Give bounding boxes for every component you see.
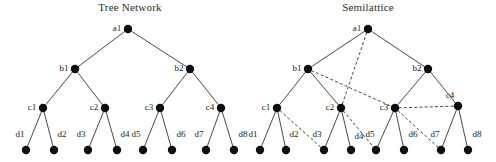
node-label-d6: d6 (177, 129, 187, 139)
node-label-d8: d8 (239, 129, 249, 139)
edge-c2-d3 (325, 111, 339, 146)
edge-c4-d8 (222, 111, 233, 146)
node-label-d4: d4 (121, 129, 131, 139)
node-c2 (101, 104, 109, 112)
node-c1 (39, 104, 47, 112)
node-label-d4: d4 (355, 131, 365, 141)
node-label-d5: d5 (366, 129, 376, 139)
edge-c3-d6 (396, 112, 403, 147)
edge-c1-d2 (44, 111, 53, 146)
edge-a1-b1 (78, 31, 125, 67)
edge-b1-c1 (279, 72, 306, 105)
edge-a1-b2 (371, 31, 425, 67)
diagram-canvas: a1b1b2c1c2c3c4d1d2d3d4d5d6d7d8Tree Netwo… (0, 0, 496, 162)
node-d4 (113, 146, 121, 154)
node-c3 (156, 104, 164, 112)
node-label-d1: d1 (16, 129, 25, 139)
node-d8 (230, 146, 238, 154)
edge-c4-d8 (459, 110, 467, 147)
node-c4 (454, 102, 462, 110)
node-label-b2: b2 (413, 63, 422, 73)
node-label-c2: c2 (326, 102, 335, 112)
node-d5 (372, 146, 380, 154)
node-label-b1: b1 (60, 63, 69, 73)
node-c4 (217, 104, 225, 112)
edge-c1-d2 (278, 112, 285, 147)
edge-c1-d1 (261, 111, 275, 146)
node-label-b1: b1 (293, 63, 302, 73)
node-label-c3: c3 (380, 102, 389, 112)
node-d2 (282, 146, 290, 154)
edge-dashed-a1-c2 (342, 32, 367, 104)
node-label-d8: d8 (473, 129, 483, 139)
edge-b1-c1 (45, 72, 72, 105)
node-label-d5: d5 (132, 129, 142, 139)
node-c1 (273, 104, 281, 112)
edge-c3-d6 (161, 111, 171, 146)
edge-a1-b2 (131, 31, 187, 67)
node-a1 (364, 25, 372, 33)
node-b1 (304, 65, 312, 73)
edge-a1-b1 (311, 31, 365, 67)
node-label-c1: c1 (28, 102, 37, 112)
edge-c3-d5 (144, 111, 158, 146)
edge-dashed-c3-c4 (399, 106, 455, 108)
edge-c3-d5 (377, 111, 393, 146)
node-label-a1: a1 (113, 23, 122, 33)
node-label-c4: c4 (206, 102, 215, 112)
node-label-d7: d7 (195, 129, 205, 139)
node-label-c4: c4 (446, 90, 455, 100)
node-d1 (22, 146, 30, 154)
node-label-d3: d3 (77, 129, 87, 139)
node-d5 (139, 146, 147, 154)
node-label-d6: d6 (409, 129, 419, 139)
node-d7 (437, 146, 445, 154)
edge-b2-c3 (397, 72, 425, 106)
node-label-c2: c2 (90, 102, 99, 112)
node-label-d3: d3 (313, 129, 323, 139)
node-label-c1: c1 (262, 102, 271, 112)
node-d4 (347, 146, 355, 154)
node-d8 (464, 146, 472, 154)
node-d2 (50, 146, 58, 154)
node-b1 (71, 65, 79, 73)
node-b2 (186, 65, 194, 73)
edge-b1-c2 (77, 72, 103, 105)
panel-semilattice: a1b1b2c1c2c3c4d1d2d3d4d5d6d7d8Semilattic… (249, 1, 483, 154)
node-c3 (391, 104, 399, 112)
node-label-d7: d7 (431, 129, 441, 139)
node-b2 (424, 65, 432, 73)
node-d1 (256, 146, 264, 154)
edge-c2-d3 (89, 111, 103, 146)
node-label-c3: c3 (145, 102, 154, 112)
node-label-b2: b2 (175, 63, 184, 73)
node-label-d2: d2 (58, 129, 67, 139)
edge-c1-d1 (27, 111, 41, 146)
semilattice-figure: a1b1b2c1c2c3c4d1d2d3d4d5d6d7d8Tree Netwo… (0, 0, 496, 162)
node-d6 (168, 146, 176, 154)
node-label-d1: d1 (249, 129, 258, 139)
node-d3 (320, 146, 328, 154)
panel-title-semilattice: Semilattice (342, 1, 394, 13)
edge-c4-d7 (442, 109, 456, 146)
edge-b1-c2 (310, 72, 338, 106)
edge-b2-c4 (192, 72, 219, 105)
node-d7 (202, 146, 210, 154)
edge-b2-c3 (162, 72, 188, 105)
edge-c4-d7 (207, 111, 220, 146)
node-label-a1: a1 (353, 23, 362, 33)
edge-c2-d4 (106, 111, 116, 146)
node-d6 (400, 146, 408, 154)
edge-c2-d4 (342, 112, 350, 147)
node-c2 (337, 104, 345, 112)
node-a1 (124, 25, 132, 33)
node-label-d2: d2 (290, 129, 299, 139)
panel-title-tree-network: Tree Network (98, 1, 162, 13)
node-d3 (84, 146, 92, 154)
panel-tree-network: a1b1b2c1c2c3c4d1d2d3d4d5d6d7d8Tree Netwo… (16, 1, 249, 154)
